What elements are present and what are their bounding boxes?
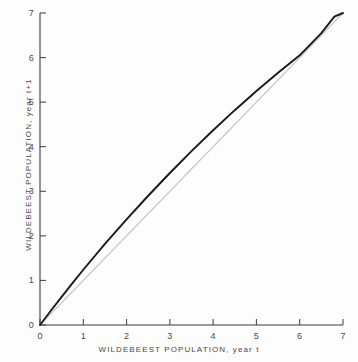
x-tick-label-2: 2: [119, 331, 135, 341]
x-tick-label-0: 0: [32, 331, 48, 341]
plot-area: [0, 0, 358, 362]
x-tick-label-5: 5: [248, 331, 264, 341]
replacement-line-series: [40, 13, 343, 325]
x-tick-label-6: 6: [292, 331, 308, 341]
y-axis-title: WILDEBEEST POPULATION, year t+1: [24, 15, 33, 315]
x-tick-label-7: 7: [335, 331, 351, 341]
y-axis-ticks: [40, 13, 46, 325]
x-axis-ticks: [40, 319, 343, 325]
y-tick-label-0: 0: [18, 320, 34, 330]
x-tick-label-4: 4: [205, 331, 221, 341]
x-axis-title: WILDEBEEST POPULATION, year t: [0, 345, 358, 354]
x-tick-label-3: 3: [162, 331, 178, 341]
wildebeest-population-chart: 7 6 5 4 3 2 1 0 0 1 2 3 4 5 6 7 WILDEBEE…: [0, 0, 358, 362]
x-tick-label-1: 1: [75, 331, 91, 341]
